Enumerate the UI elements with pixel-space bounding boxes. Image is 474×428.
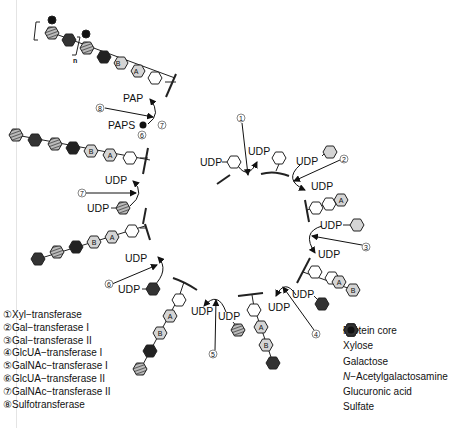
svg-text:4: 4 [314, 331, 318, 338]
repeat-n-label: n [73, 57, 77, 64]
svg-text:7: 7 [80, 190, 84, 197]
svg-text:UDP: UDP [125, 252, 147, 264]
svg-text:B: B [89, 148, 94, 155]
svg-text:UDP: UDP [318, 248, 340, 260]
svg-text:B: B [158, 330, 163, 337]
enzyme-legend-item-7: ⑦GalNAc−transferase II [3, 386, 111, 399]
svg-text:A: A [337, 279, 342, 286]
chain-top-sulfated [34, 16, 176, 97]
svg-text:UDP: UDP [320, 219, 342, 231]
symbol-legend-glucuronic-acid: Glucuronic acid [343, 384, 448, 399]
enzyme-legend-item-3: ③Gal−transferase II [3, 335, 111, 348]
enzyme-legend-item-6: ⑥GlcUA−transferase II [3, 373, 111, 386]
svg-text:A: A [339, 197, 344, 204]
paps-label: PAPS [108, 119, 135, 131]
pap-label: PAP [123, 92, 143, 104]
svg-text:UDP: UDP [311, 180, 333, 192]
svg-text:B: B [116, 60, 121, 67]
svg-text:A: A [134, 68, 139, 75]
enzyme-legend-item-8: ⑧Sulfotransferase [3, 399, 111, 412]
svg-text:A: A [108, 152, 113, 159]
svg-text:UDP: UDP [248, 145, 270, 157]
svg-text:UDP: UDP [105, 174, 127, 186]
svg-text:B: B [351, 287, 356, 294]
svg-text:UDP: UDP [268, 301, 290, 313]
symbol-legend-galnac: N−Acetylgalactosamine [343, 369, 448, 384]
svg-text:5: 5 [211, 351, 215, 358]
enzyme-legend-item-1: ①Xyl−transferase [3, 309, 111, 322]
symbol-legend-xylose: Xylose [343, 338, 448, 353]
glycosaminoglycan-diagram: n B A PAP PAPS 8 7 6 B A [0, 0, 474, 428]
svg-text:UDP: UDP [118, 283, 140, 295]
symbol-legend: Protein core Xylose Galactose N−Acetylga… [343, 323, 448, 415]
enzyme-legend: ①Xyl−transferase ②Gal−transferase I ③Gal… [3, 309, 111, 411]
svg-text:UDP: UDP [218, 310, 240, 322]
svg-text:A: A [168, 313, 173, 320]
svg-text:3: 3 [364, 244, 368, 251]
svg-text:UDP: UDP [296, 155, 318, 167]
svg-text:2: 2 [342, 156, 346, 163]
svg-text:UDP: UDP [200, 156, 222, 168]
svg-text:6: 6 [140, 132, 144, 139]
svg-text:6: 6 [107, 281, 111, 288]
enzyme-legend-item-2: ②Gal−transferase I [3, 322, 111, 335]
sulfate-icon [343, 323, 359, 337]
svg-text:8: 8 [98, 105, 102, 112]
symbol-legend-sulfate: Sulfate [343, 399, 448, 414]
svg-text:B: B [264, 342, 269, 349]
svg-text:A: A [259, 324, 264, 331]
svg-text:7: 7 [160, 122, 164, 129]
svg-text:UDP: UDP [292, 288, 314, 300]
svg-text:UDP: UDP [191, 305, 213, 317]
svg-text:1: 1 [239, 115, 243, 122]
svg-text:A: A [110, 234, 115, 241]
svg-text:UDP: UDP [87, 202, 109, 214]
svg-text:B: B [92, 239, 97, 246]
chain-bottom-left [133, 278, 197, 375]
chain-second [9, 129, 150, 174]
enzyme-legend-item-5: ⑤GalNAc−transferase I [3, 360, 111, 373]
symbol-legend-galactose: Galactose [343, 354, 448, 369]
enzyme-legend-item-4: ④GlcUA−transferase I [3, 347, 111, 360]
